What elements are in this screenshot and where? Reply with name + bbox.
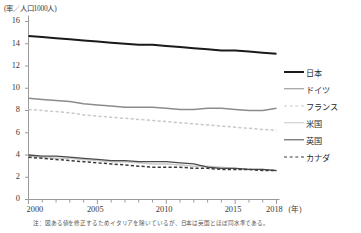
y-tick-label: 10 [2, 84, 20, 92]
series-line-2 [29, 109, 277, 130]
x-tick-label: 2000 [27, 206, 44, 214]
legend-item-1: ドイツ [284, 80, 360, 97]
x-tick-label: 2005 [87, 206, 104, 214]
y-tick-label: 6 [2, 129, 20, 137]
legend-item-3: 米国 [284, 114, 360, 131]
series-line-4 [29, 155, 277, 171]
legend-item-0: 日本 [284, 63, 360, 80]
legend-swatch-icon [284, 84, 304, 93]
legend-swatch-icon [284, 101, 304, 110]
legend-label: ドイツ [304, 83, 330, 95]
series-line-0 [29, 36, 277, 54]
x-tick-label: 2015 [225, 206, 242, 214]
y-tick-label: 12 [2, 62, 20, 70]
legend-item-2: フランス [284, 97, 360, 114]
y-tick-label: 16 [2, 17, 20, 25]
y-tick-label: 4 [2, 151, 20, 159]
legend-swatch-icon [284, 152, 304, 161]
legend-label: 英国 [304, 134, 322, 146]
x-tick-label: 2018 [266, 206, 283, 214]
series-line-1 [29, 98, 277, 110]
y-tick-label: 0 [2, 195, 20, 203]
legend-label: 米国 [304, 117, 322, 129]
x-tick-label: 2010 [156, 206, 173, 214]
y-tick-label: 2 [2, 173, 20, 181]
chart-footnote: 注：図ある値を修正するためイタリアを除いているが、日本は英国とほぼ同水準である。 [33, 219, 269, 227]
chart-legend: 日本ドイツフランス米国英国カナダ [284, 63, 360, 165]
legend-item-4: 英国 [284, 131, 360, 148]
legend-label: 日本 [304, 66, 322, 78]
legend-swatch-icon [284, 118, 304, 127]
legend-swatch-icon [284, 67, 304, 76]
legend-label: カナダ [304, 151, 330, 163]
legend-item-5: カナダ [284, 148, 360, 165]
legend-label: フランス [304, 100, 338, 112]
y-tick-label: 8 [2, 106, 20, 114]
x-axis-unit: (年) [289, 206, 302, 214]
series-group [29, 36, 277, 171]
legend-swatch-icon [284, 135, 304, 144]
y-tick-label: 14 [2, 40, 20, 48]
line-chart: (率／人口1000人) 1614121086420 20002005201020… [0, 0, 361, 233]
